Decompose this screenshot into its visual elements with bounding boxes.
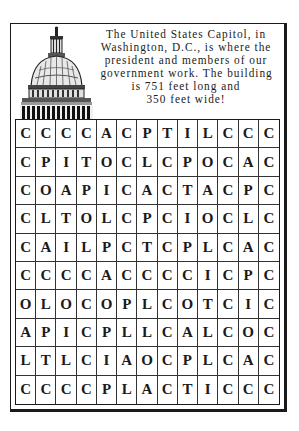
grid-cell[interactable]: A	[137, 177, 157, 205]
grid-cell[interactable]: T	[178, 376, 198, 404]
grid-cell[interactable]: L	[36, 205, 56, 233]
grid-cell[interactable]: L	[16, 347, 36, 375]
grid-cell[interactable]: L	[97, 205, 117, 233]
grid-cell[interactable]: P	[77, 177, 97, 205]
grid-cell[interactable]: A	[36, 234, 56, 262]
grid-cell[interactable]: C	[117, 262, 137, 290]
grid-cell[interactable]: C	[158, 319, 178, 347]
grid-cell[interactable]: C	[16, 234, 36, 262]
grid-cell[interactable]: I	[198, 262, 218, 290]
grid-cell[interactable]: C	[158, 234, 178, 262]
grid-cell[interactable]: T	[56, 205, 76, 233]
grid-cell[interactable]: C	[16, 120, 36, 148]
grid-cell[interactable]: I	[97, 347, 117, 375]
grid-cell[interactable]: O	[239, 319, 259, 347]
grid-cell[interactable]: C	[259, 319, 279, 347]
grid-cell[interactable]: C	[77, 290, 97, 318]
grid-cell[interactable]: L	[198, 234, 218, 262]
grid-cell[interactable]: T	[77, 148, 97, 176]
grid-cell[interactable]: C	[117, 120, 137, 148]
grid-cell[interactable]: P	[239, 177, 259, 205]
grid-cell[interactable]: P	[137, 120, 157, 148]
grid-cell[interactable]: O	[97, 290, 117, 318]
grid-cell[interactable]: I	[97, 177, 117, 205]
grid-cell[interactable]: C	[16, 376, 36, 404]
grid-cell[interactable]: C	[158, 262, 178, 290]
grid-cell[interactable]: P	[97, 376, 117, 404]
grid-cell[interactable]: C	[218, 120, 238, 148]
grid-cell[interactable]: L	[117, 319, 137, 347]
grid-cell[interactable]: C	[259, 205, 279, 233]
grid-cell[interactable]: L	[36, 290, 56, 318]
grid-cell[interactable]: C	[158, 290, 178, 318]
grid-cell[interactable]: O	[36, 177, 56, 205]
grid-cell[interactable]: L	[137, 290, 157, 318]
grid-cell[interactable]: O	[198, 148, 218, 176]
grid-cell[interactable]: C	[117, 234, 137, 262]
grid-cell[interactable]: C	[56, 120, 76, 148]
grid-cell[interactable]: L	[137, 319, 157, 347]
grid-cell[interactable]: O	[97, 148, 117, 176]
grid-cell[interactable]: L	[77, 234, 97, 262]
grid-cell[interactable]: C	[218, 234, 238, 262]
grid-cell[interactable]: C	[77, 319, 97, 347]
grid-cell[interactable]: A	[239, 148, 259, 176]
grid-cell[interactable]: C	[259, 148, 279, 176]
grid-cell[interactable]: C	[158, 205, 178, 233]
grid-cell[interactable]: C	[239, 376, 259, 404]
grid-cell[interactable]: C	[16, 148, 36, 176]
grid-cell[interactable]: I	[198, 376, 218, 404]
grid-cell[interactable]: T	[158, 120, 178, 148]
grid-cell[interactable]: T	[36, 347, 56, 375]
grid-cell[interactable]: O	[77, 205, 97, 233]
grid-cell[interactable]: P	[178, 148, 198, 176]
grid-cell[interactable]: C	[36, 376, 56, 404]
grid-cell[interactable]: I	[178, 120, 198, 148]
grid-cell[interactable]: C	[259, 376, 279, 404]
grid-cell[interactable]: C	[56, 376, 76, 404]
grid-cell[interactable]: I	[56, 234, 76, 262]
grid-cell[interactable]: C	[16, 205, 36, 233]
grid-cell[interactable]: T	[178, 177, 198, 205]
grid-cell[interactable]: C	[16, 262, 36, 290]
grid-cell[interactable]: C	[117, 148, 137, 176]
grid-cell[interactable]: C	[77, 347, 97, 375]
grid-cell[interactable]: C	[259, 234, 279, 262]
grid-cell[interactable]: C	[259, 120, 279, 148]
grid-cell[interactable]: P	[239, 262, 259, 290]
grid-cell[interactable]: C	[259, 290, 279, 318]
grid-cell[interactable]: L	[117, 376, 137, 404]
grid-cell[interactable]: A	[178, 319, 198, 347]
grid-cell[interactable]: L	[198, 120, 218, 148]
grid-cell[interactable]: L	[239, 205, 259, 233]
grid-cell[interactable]: I	[239, 290, 259, 318]
grid-cell[interactable]: L	[198, 319, 218, 347]
grid-cell[interactable]: A	[239, 234, 259, 262]
grid-cell[interactable]: C	[259, 347, 279, 375]
grid-cell[interactable]: I	[56, 319, 76, 347]
grid-cell[interactable]: L	[56, 347, 76, 375]
grid-cell[interactable]: P	[137, 205, 157, 233]
grid-cell[interactable]: C	[259, 262, 279, 290]
grid-cell[interactable]: C	[77, 120, 97, 148]
grid-cell[interactable]: C	[36, 262, 56, 290]
grid-cell[interactable]: A	[16, 319, 36, 347]
grid-cell[interactable]: P	[117, 290, 137, 318]
grid-cell[interactable]: C	[36, 120, 56, 148]
grid-cell[interactable]: C	[218, 376, 238, 404]
grid-cell[interactable]: A	[239, 347, 259, 375]
grid-cell[interactable]: C	[239, 120, 259, 148]
grid-cell[interactable]: C	[158, 376, 178, 404]
grid-cell[interactable]: C	[117, 205, 137, 233]
grid-cell[interactable]: I	[178, 205, 198, 233]
grid-cell[interactable]: C	[56, 262, 76, 290]
grid-cell[interactable]: O	[198, 205, 218, 233]
grid-cell[interactable]: O	[178, 290, 198, 318]
grid-cell[interactable]: C	[218, 262, 238, 290]
grid-cell[interactable]: C	[218, 319, 238, 347]
grid-cell[interactable]: C	[218, 148, 238, 176]
grid-cell[interactable]: P	[97, 319, 117, 347]
grid-cell[interactable]: I	[56, 148, 76, 176]
grid-cell[interactable]: O	[137, 347, 157, 375]
grid-cell[interactable]: C	[77, 376, 97, 404]
